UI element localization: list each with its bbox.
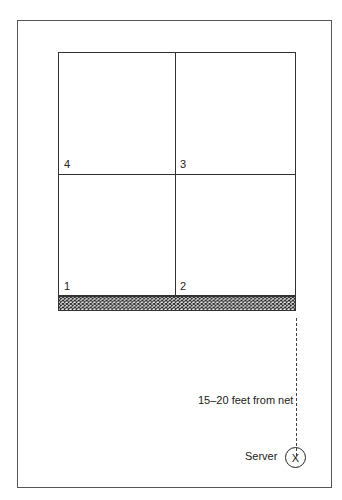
zone-1-label: 1 — [64, 280, 70, 292]
zone-4-label: 4 — [64, 158, 70, 170]
net — [58, 296, 296, 311]
distance-label: 15–20 feet from net — [198, 394, 293, 406]
server-marker-text: X — [292, 452, 299, 464]
server-x-marker-icon: X — [285, 447, 306, 468]
zone-2-label: 2 — [180, 280, 186, 292]
server-label: Server — [245, 450, 277, 462]
serve-distance-dashed-line — [296, 318, 297, 456]
court: 4 3 1 2 — [58, 52, 296, 296]
net-mesh-icon — [59, 297, 295, 310]
court-center-horizontal-line — [59, 174, 295, 175]
zone-3-label: 3 — [180, 158, 186, 170]
